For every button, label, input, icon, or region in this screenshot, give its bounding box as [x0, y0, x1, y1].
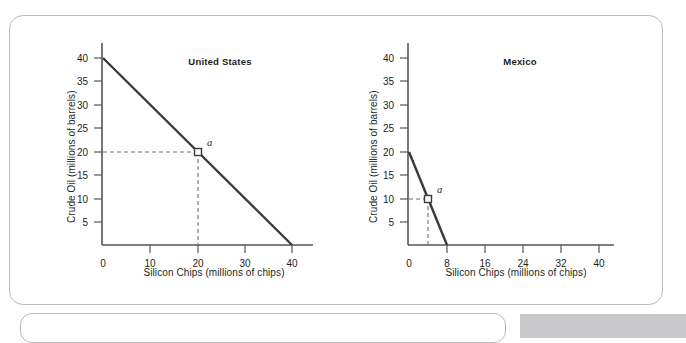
x-ticks-mx: [447, 245, 599, 253]
y-ticklabel-mx-5: 5: [388, 217, 394, 228]
x-axis-label-mexico: Silicon Chips (millions of chips): [322, 267, 676, 278]
y-ticklabel-mx-15: 15: [383, 170, 395, 181]
y-ticklabel-us-35: 35: [77, 76, 89, 87]
y-ticklabel-us-30: 30: [77, 100, 89, 111]
y-ticklabel-us-15: 15: [77, 170, 89, 181]
point-marker-a-mx: [425, 196, 432, 203]
y-axis-label-united-states: Crude Oil (millions of barrels): [66, 90, 77, 223]
y-ticklabel-us-5: 5: [82, 217, 88, 228]
x-axis-label-united-states: Silicon Chips (millions of chips): [18, 267, 374, 278]
y-ticklabel-mx-20: 20: [383, 147, 395, 158]
y-ticks-mx: [400, 58, 408, 222]
y-ticklabel-mx-25: 25: [383, 123, 395, 134]
y-ticklabel-us-20: 20: [77, 147, 89, 158]
x-ticks-us: [150, 245, 292, 253]
chart-mexico: 40 35 30 25 20 15 10 5 0 8 16 2: [322, 15, 642, 290]
y-ticklabel-mx-30: 30: [383, 100, 395, 111]
gray-placeholder-block: [520, 314, 686, 338]
y-ticklabel-mx-10: 10: [383, 194, 395, 205]
y-ticklabel-us-25: 25: [77, 123, 89, 134]
chart-title-mexico: Mexico: [322, 56, 680, 67]
y-ticklabels-mx: 40 35 30 25 20 15 10 5: [383, 53, 395, 228]
y-ticklabel-mx-35: 35: [383, 76, 395, 87]
point-marker-a-us: [195, 149, 202, 156]
y-axis-label-mexico: Crude Oil (millions of barrels): [368, 90, 379, 223]
point-label-a-us: a: [207, 137, 212, 148]
next-figure-panel: [20, 313, 506, 343]
y-ticklabel-us-10: 10: [77, 194, 89, 205]
y-ticklabels-us: 40 35 30 25 20 15 10 5: [77, 53, 89, 228]
point-label-a-mx: a: [437, 184, 442, 195]
y-ticks-us: [94, 58, 102, 222]
chart-united-states: 40 35 30 25 20 15 10 5 0 10 20 30: [18, 15, 338, 290]
